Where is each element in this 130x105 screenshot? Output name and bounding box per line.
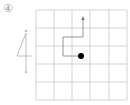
digit-four-figure xyxy=(17,30,32,73)
start-dot xyxy=(78,53,84,59)
arrow-up-icon xyxy=(82,16,85,20)
diagram xyxy=(0,0,130,105)
route-path xyxy=(63,16,85,59)
